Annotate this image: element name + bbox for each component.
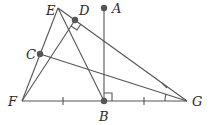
point-B (101, 98, 107, 104)
point-A (101, 5, 107, 11)
right-angle-mark-D (71, 24, 81, 30)
segment-CG (40, 54, 187, 101)
label-E: E (45, 3, 56, 18)
point-D (72, 17, 78, 23)
label-C: C (26, 47, 36, 62)
geometry-diagram: E D A C F B G (0, 0, 210, 125)
label-B: B (98, 109, 109, 124)
label-G: G (192, 94, 202, 109)
label-F: F (7, 94, 18, 109)
label-D: D (78, 3, 90, 18)
label-A: A (111, 1, 121, 16)
segment-EB (58, 8, 104, 101)
point-C (37, 51, 43, 57)
angle-arc-G-inner (165, 94, 166, 101)
